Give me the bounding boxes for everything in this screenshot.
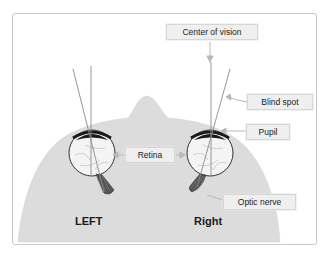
optic-nerve-label: Optic nerve <box>223 194 296 210</box>
left-side-title: LEFT <box>75 215 103 227</box>
head-silhouette <box>18 96 280 242</box>
blind-spot-label: Blind spot <box>247 94 313 110</box>
pupil-label: Pupil <box>246 124 290 140</box>
center-of-vision-label: Center of vision <box>166 24 258 40</box>
retina-label: Retina <box>125 147 175 163</box>
right-side-title: Right <box>194 215 222 227</box>
